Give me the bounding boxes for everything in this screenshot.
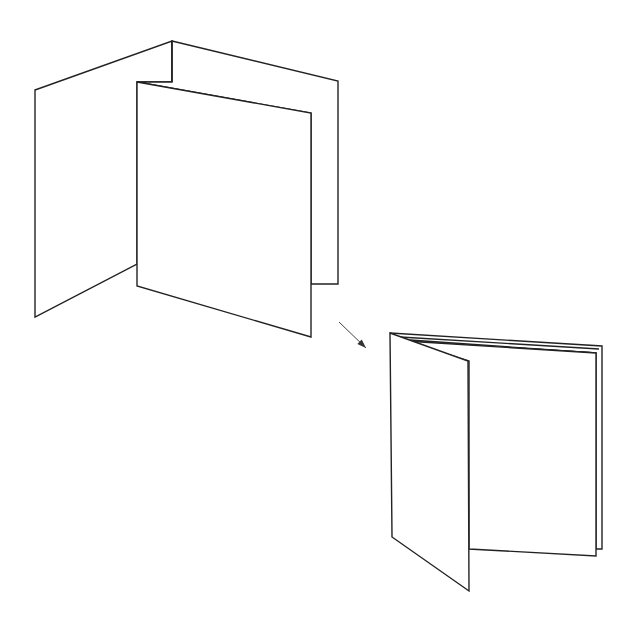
transition-arrow [339,322,366,348]
front-flap [390,333,469,591]
folded-booklet-figure [390,333,602,591]
diagram-canvas [0,0,643,627]
folding-diagram [0,0,643,627]
front-panel [137,82,311,337]
accordion-fold-figure [35,41,338,337]
